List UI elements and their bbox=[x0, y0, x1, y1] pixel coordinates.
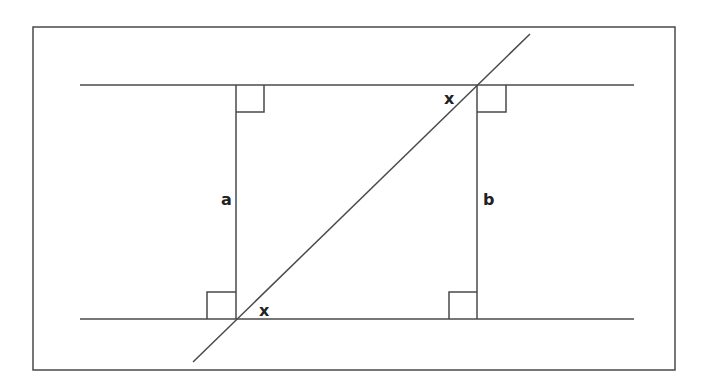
transversal-line bbox=[193, 34, 530, 362]
right-angle-marker-bottom-left bbox=[207, 292, 236, 319]
right-angle-marker-bottom-right bbox=[449, 292, 477, 319]
diagram-canvas: a b x x bbox=[0, 0, 706, 384]
label-angle-top-x: x bbox=[444, 89, 455, 108]
right-angle-marker-top-left bbox=[236, 85, 264, 112]
label-b: b bbox=[483, 190, 494, 209]
label-angle-bottom-x: x bbox=[259, 301, 270, 320]
right-angle-marker-top-right bbox=[477, 85, 506, 112]
label-a: a bbox=[221, 190, 232, 209]
